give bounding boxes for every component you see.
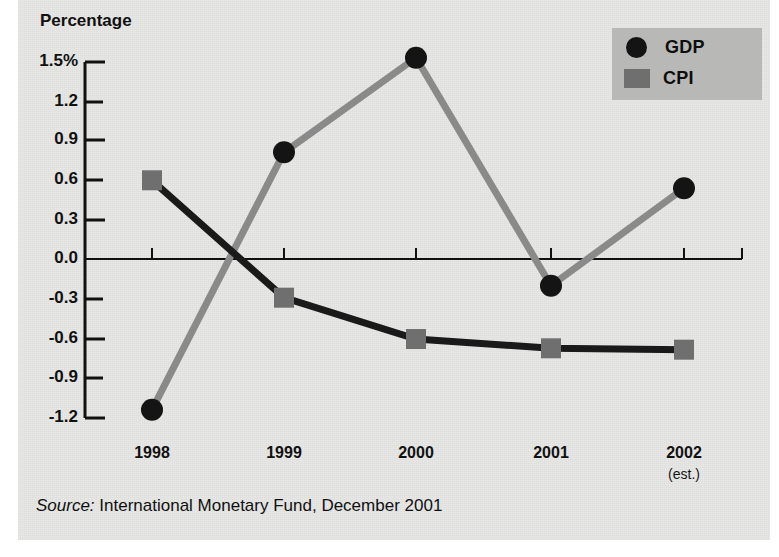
- y-tick-label-9: -0.9: [0, 367, 78, 387]
- y-axis-title: Percentage: [40, 11, 132, 31]
- x-tick-sublabel-2002: (est.): [634, 466, 734, 482]
- data-point-cpi-2001: [541, 338, 561, 358]
- data-point-gdp-1998: [141, 399, 163, 421]
- data-point-gdp-2000: [405, 47, 427, 69]
- x-tick-label-2001: 2001: [501, 444, 601, 462]
- y-tick-label-10: -1.2: [0, 407, 78, 427]
- chart-legend: GDP CPI: [612, 28, 762, 100]
- legend-entry-cpi[interactable]: CPI: [626, 68, 694, 89]
- y-tick-label-8: -0.6: [0, 328, 78, 348]
- x-tick-label-2002: 2002: [634, 444, 734, 462]
- cpi-square-marker-icon: [624, 69, 650, 88]
- y-tick-label-3: 0.9: [0, 129, 78, 149]
- y-tick-label-1: 1.5%: [0, 51, 78, 71]
- legend-label-gdp: GDP: [665, 37, 705, 58]
- y-tick-label-7: -0.3: [0, 288, 78, 308]
- data-point-cpi-2002: [674, 340, 694, 360]
- legend-entry-gdp[interactable]: GDP: [626, 37, 705, 58]
- legend-label-cpi: CPI: [663, 68, 694, 89]
- y-tick-label-5: 0.3: [0, 209, 78, 229]
- x-tick-label-1999: 1999: [234, 444, 334, 462]
- gdp-circle-marker-icon: [626, 37, 647, 58]
- data-point-gdp-1999: [273, 141, 295, 163]
- y-axis-ticks: [85, 62, 105, 418]
- data-point-cpi-1998: [142, 170, 162, 190]
- source-keyword: Source:: [36, 496, 95, 515]
- source-text: International Monetary Fund, December 20…: [95, 496, 443, 515]
- y-tick-label-2: 1.2: [0, 91, 78, 111]
- series-line-cpi: [152, 180, 684, 349]
- data-point-gdp-2002: [673, 177, 695, 199]
- y-tick-label-4: 0.6: [0, 169, 78, 189]
- source-note: Source: International Monetary Fund, Dec…: [36, 496, 442, 516]
- data-point-cpi-2000: [406, 329, 426, 349]
- chart-page: Percentage 1.5% 1.2 0.9 0.6 0.3 0.0 -0.3…: [0, 0, 779, 557]
- series-line-gdp: [152, 58, 684, 410]
- x-tick-label-2000: 2000: [366, 444, 466, 462]
- series-markers-gdp: [141, 47, 695, 421]
- data-point-gdp-2001: [540, 275, 562, 297]
- x-tick-label-1998: 1998: [102, 444, 202, 462]
- data-point-cpi-1999: [274, 288, 294, 308]
- y-tick-label-6: 0.0: [0, 248, 78, 268]
